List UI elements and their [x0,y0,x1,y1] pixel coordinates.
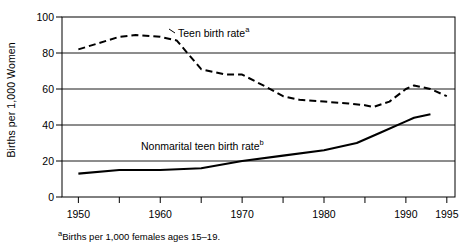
chart-figure: Births per 1,000 Women 020406080100 1950… [0,0,467,247]
x-axis-tick-label: 1990 [386,208,426,220]
series-label-nonmarital-teen-birth-rate-superscript: b [259,138,263,147]
series-label-nonmarital-teen-birth-rate-text: Nonmarital teen birth rate [141,140,259,152]
series-label-teen-birth-rate: Teen birth ratea [178,25,249,39]
x-axis-tick-label: 1980 [304,208,344,220]
x-axis-tick-label: 1960 [140,208,180,220]
x-axis-tick-label: 1970 [222,208,262,220]
chart-footnote: aBirths per 1,000 females ages 15–19. [58,229,220,242]
series-label-teen-birth-rate-superscript: a [245,25,249,34]
footnote-text: Births per 1,000 females ages 15–19. [62,231,220,242]
x-axis-tick-label: 1995 [427,208,467,220]
series-label-teen-birth-rate-text: Teen birth rate [178,27,245,39]
x-axis-tick-label: 1950 [58,208,98,220]
series-label-nonmarital-teen-birth-rate: Nonmarital teen birth rateb [141,138,264,152]
